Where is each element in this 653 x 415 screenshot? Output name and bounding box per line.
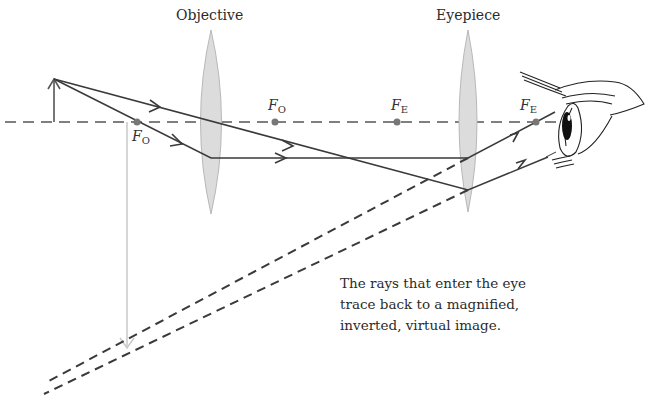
pupil (562, 112, 572, 140)
focal-dot-fe-right (533, 119, 540, 126)
focal-label-fe-right: FE (520, 97, 537, 115)
caption-line-3: inverted, virtual image. (340, 315, 526, 336)
eyepiece-lens (459, 30, 477, 212)
focal-label-fo-left: FO (132, 128, 150, 146)
objective-lens (201, 30, 222, 214)
ray-arrow (510, 133, 518, 142)
virtual-ray-upper (45, 158, 468, 383)
focal-label-fo-right: FO (268, 97, 286, 115)
focal-dot-fe-left (394, 119, 401, 126)
focal-dot-fo-left (134, 119, 141, 126)
objective-label: Objective (176, 7, 243, 23)
focal-label-fe-left: FE (391, 97, 408, 115)
ray-diagram (0, 0, 653, 415)
eyepiece-label: Eyepiece (436, 7, 500, 23)
ray-extension (546, 152, 556, 157)
focal-dot-fo-right (272, 119, 279, 126)
caption-line-2: trace back to a magnified, (340, 294, 526, 315)
pupil-highlight (568, 115, 571, 121)
caption-line-1: The rays that enter the eye (340, 273, 526, 294)
caption: The rays that enter the eye trace back t… (340, 273, 526, 336)
